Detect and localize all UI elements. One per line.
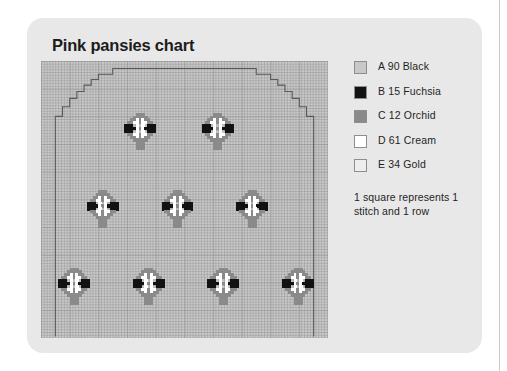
pansy-motif [58,268,90,305]
pansy-motif [162,190,194,227]
chart-cell [230,291,233,294]
chart-cell [311,285,314,288]
chart-cell [225,136,228,139]
pansy-motif [87,190,119,227]
legend-swatch-e-34-gold [354,159,367,172]
chart-cell [299,302,302,305]
chart-cell [302,293,305,296]
chart-cell [305,291,308,294]
legend-note: 1 square represents 1 stitch and 1 row [354,190,482,218]
chart-cell [104,225,107,228]
chart-cell [236,285,239,288]
page-title: Pink pansies chart [52,36,194,55]
legend-swatch-d-61-cream [354,135,367,148]
chart-cell [150,302,153,305]
legend-item-e[interactable]: E 34 Gold [354,158,474,183]
chart-cell [253,225,256,228]
legend-label-c: C 12 Orchid [378,109,436,121]
chart-cell [233,288,236,291]
legend-swatch-c-12-orchid [354,110,367,123]
chart-cell [116,207,119,210]
legend-swatch-b-15-fuchsia [354,86,367,99]
chart-cell [87,285,90,288]
chart-cell [107,216,110,219]
chart-cell [219,147,222,150]
chart-cell [228,293,231,296]
chart-cell [187,210,190,213]
chart-cell [156,291,159,294]
pansy-motif [202,113,234,150]
chart-cell [153,130,156,133]
chart-cell [190,207,193,210]
chart-cell [225,302,228,305]
legend-item-d[interactable]: D 61 Cream [354,134,474,159]
chart-cell [75,302,78,305]
chart-cell [265,207,268,210]
chart-cell [184,213,187,216]
knitting-chart-panel[interactable] [41,61,328,338]
legend: A 90 Black B 15 Fuchsia C 12 Orchid D 61… [354,60,474,183]
chart-cell [113,210,116,213]
pansy-motif [236,190,268,227]
pansy-motif-layer [41,61,328,338]
pansy-motif [133,268,165,305]
legend-label-e: E 34 Gold [378,158,426,170]
chart-cell [141,147,144,150]
chart-card: Pink pansies chart A 90 Black B 15 Fuchs… [27,18,482,353]
chart-cell [259,213,262,216]
chart-cell [308,288,311,291]
legend-item-b[interactable]: B 15 Fuchsia [354,85,474,110]
chart-cell [81,291,84,294]
chart-cell [84,288,87,291]
chart-cell [144,138,147,141]
chart-cell [162,285,165,288]
pansy-motif [207,268,239,305]
legend-label-a: A 90 Black [378,60,429,72]
chart-cell [150,133,153,136]
page-root: Pink pansies chart A 90 Black B 15 Fuchs… [0,0,507,371]
chart-cell [179,225,182,228]
chart-cell [159,288,162,291]
chart-cell [147,136,150,139]
page-margin-rule [499,0,500,371]
pansy-motif [282,268,314,305]
chart-cell [262,210,265,213]
chart-cell [78,293,81,296]
chart-cell [256,216,259,219]
chart-cell [153,293,156,296]
legend-item-c[interactable]: C 12 Orchid [354,109,474,134]
legend-swatch-a-90-black [354,61,367,74]
legend-label-b: B 15 Fuchsia [378,85,441,97]
chart-cell [228,133,231,136]
chart-cell [182,216,185,219]
legend-label-d: D 61 Cream [378,134,436,146]
chart-cell [222,138,225,141]
chart-cell [110,213,113,216]
chart-cell [230,130,233,133]
pansy-motif [124,113,156,150]
legend-item-a[interactable]: A 90 Black [354,60,474,85]
